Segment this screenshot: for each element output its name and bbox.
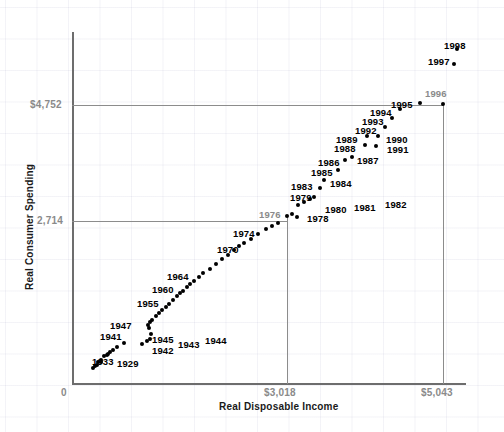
data-point-label: 1942 [152, 345, 174, 356]
data-point [192, 279, 196, 283]
data-point-label: 1964 [167, 271, 189, 282]
data-point-label: 1955 [137, 298, 159, 309]
data-point [140, 342, 144, 346]
data-point [242, 241, 246, 245]
data-point-label: 1996 [425, 88, 447, 99]
data-point-label: 1995 [391, 99, 413, 110]
data-point [285, 214, 289, 218]
data-point-label: 1983 [291, 181, 313, 192]
data-point [441, 102, 445, 106]
data-point [106, 352, 110, 356]
data-point [295, 215, 299, 219]
data-point [452, 62, 456, 66]
x-tick-label-5043: $5,043 [421, 387, 453, 398]
data-point [256, 232, 260, 236]
data-point [208, 267, 212, 271]
data-point-label: 1991 [387, 144, 409, 155]
data-point-label: 1944 [205, 335, 227, 346]
data-point-label: 1981 [354, 202, 376, 213]
data-point [418, 101, 422, 105]
data-point-label: 1986 [318, 157, 340, 168]
origin-tick-label: 0 [61, 387, 67, 398]
chart-canvas: $4,752 2,714 0 $3,018 $5,043 Real Consum… [0, 0, 504, 432]
y-reference-line-4752 [72, 105, 444, 106]
data-point [167, 302, 171, 306]
scatter-plot-area: $4,752 2,714 0 $3,018 $5,043 Real Consum… [0, 0, 504, 432]
y-tick-label-4752: $4,752 [30, 99, 62, 110]
data-point-label: 1970 [217, 244, 239, 255]
data-point [197, 275, 201, 279]
data-point [383, 125, 387, 129]
x-axis-line [72, 383, 466, 385]
data-point-label: 1974 [233, 228, 255, 239]
y-reference-line-2714 [72, 221, 288, 222]
data-point [99, 360, 103, 364]
data-point-label: 1982 [385, 199, 407, 210]
data-point [350, 155, 354, 159]
data-point-label: 1998 [444, 40, 466, 51]
data-point-label: 1976 [259, 209, 281, 220]
data-point-label: 1941 [100, 331, 122, 342]
data-point-label: 1980 [325, 204, 347, 215]
data-point-label: 1984 [330, 178, 352, 189]
data-point [363, 143, 367, 147]
data-point [376, 134, 380, 138]
data-point [220, 257, 224, 261]
data-point [150, 318, 154, 322]
data-point-label: 1947 [110, 320, 132, 331]
data-point-label: 1985 [311, 167, 333, 178]
data-point-label: 1994 [370, 107, 392, 118]
data-point-label: 1960 [152, 284, 174, 295]
data-point [188, 282, 192, 286]
data-point [264, 227, 268, 231]
x-axis-title: Real Disposable Income [219, 401, 338, 412]
data-point [115, 345, 119, 349]
data-point [296, 203, 300, 207]
data-point [312, 195, 316, 199]
data-point-label: 1929 [117, 358, 139, 369]
x-reference-line-3018 [287, 216, 288, 384]
data-point [181, 289, 185, 293]
data-point [111, 348, 115, 352]
y-axis-line [72, 32, 74, 384]
data-point [302, 200, 306, 204]
y-axis-title: Real Consumer Spending [24, 164, 35, 290]
data-point [374, 144, 378, 148]
data-point [290, 212, 294, 216]
data-point [276, 221, 280, 225]
x-reference-line-5043 [443, 104, 444, 384]
data-point [214, 262, 218, 266]
data-point [122, 341, 126, 345]
data-point [318, 186, 322, 190]
data-point [322, 178, 326, 182]
x-tick-label-3018: $3,018 [264, 387, 296, 398]
data-point-label: 1943 [178, 339, 200, 350]
data-point-label: 1987 [357, 155, 379, 166]
data-point [201, 271, 205, 275]
data-point [343, 158, 347, 162]
data-point [95, 363, 99, 367]
data-point [160, 308, 164, 312]
data-point [270, 224, 274, 228]
data-point [336, 168, 340, 172]
data-point [171, 298, 175, 302]
data-point-label: 1945 [152, 334, 174, 345]
data-point-label: 1997 [428, 56, 450, 67]
y-tick-label-2714: 2,714 [37, 215, 63, 226]
